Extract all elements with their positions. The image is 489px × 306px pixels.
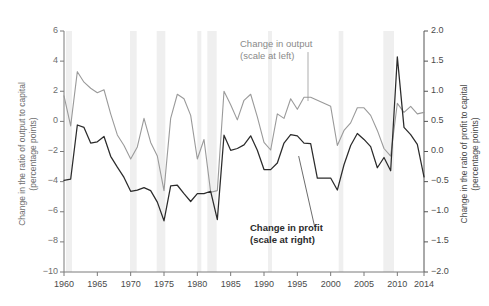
recession-band — [339, 31, 344, 272]
right-tick-label: 0.0 — [431, 145, 467, 155]
right-tick-label: 0.5 — [431, 115, 467, 125]
right-tick-label: 2.0 — [431, 25, 467, 35]
left-tick-label: 4 — [22, 55, 58, 65]
recession-band — [66, 31, 72, 272]
right-tick-label: −1.5 — [431, 235, 467, 245]
left-tick-label: 2 — [22, 85, 58, 95]
left-tick-label: −2 — [22, 145, 58, 155]
series-line-change-in-profit — [64, 57, 424, 221]
annotation-change-in-output: Change in output (scale at left) — [240, 38, 312, 62]
recession-band — [157, 31, 166, 272]
right-tick-label: −0.5 — [431, 175, 467, 185]
left-tick-label: 0 — [22, 115, 58, 125]
recession-bands — [66, 31, 394, 272]
left-tick-label: −6 — [22, 205, 58, 215]
annotation-change-in-profit: Change in profit (scale at right) — [250, 222, 323, 246]
series-line-change-in-output — [64, 72, 424, 193]
recession-band — [207, 31, 216, 272]
left-tick-label: −4 — [22, 175, 58, 185]
left-tick-label: 6 — [22, 25, 58, 35]
left-tick-label: −10 — [22, 266, 58, 276]
right-tick-label: 1.0 — [431, 85, 467, 95]
right-tick-label: −2.0 — [431, 266, 467, 276]
right-tick-label: −1.0 — [431, 205, 467, 215]
recession-band — [130, 31, 137, 272]
right-tick-label: 1.5 — [431, 55, 467, 65]
x-tick-label: 2014 — [404, 279, 444, 289]
left-tick-label: −8 — [22, 235, 58, 245]
axes — [64, 31, 424, 272]
leader-line — [299, 156, 315, 227]
data-series — [64, 57, 424, 221]
